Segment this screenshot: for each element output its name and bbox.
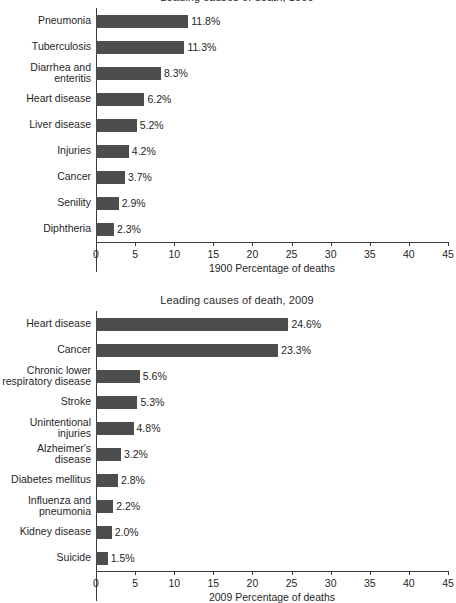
bar	[96, 344, 278, 357]
bar	[96, 500, 113, 513]
bar-value-label: 5.3%	[140, 397, 164, 408]
bar	[96, 318, 288, 331]
bar-row: Tuberculosis11.3%	[0, 34, 456, 60]
chart-1900: Leading causes of death, 1900 Pneumonia1…	[0, 0, 456, 291]
bar-track: 24.6%	[96, 311, 456, 337]
bar-category-label: Heart disease	[0, 318, 96, 330]
chart-2009-x-axis: 051015202530354045 2009 Percentage of de…	[96, 571, 456, 601]
x-axis-tick	[331, 571, 332, 575]
x-axis-tick	[292, 571, 293, 575]
bar	[96, 526, 112, 539]
bar-value-label: 2.8%	[121, 475, 145, 486]
bar-category-label: Suicide	[0, 552, 96, 564]
bar-category-label: Cancer	[0, 344, 96, 356]
x-axis-tick	[448, 242, 449, 246]
x-axis-tick-label: 15	[207, 577, 219, 589]
bar-value-label: 11.8%	[191, 16, 220, 27]
x-axis-tick	[409, 242, 410, 246]
bar-value-label: 8.3%	[164, 68, 188, 79]
x-axis-tick-label: 30	[325, 248, 337, 260]
x-axis-tick	[448, 571, 449, 575]
bar-category-label: Chronic lower respiratory disease	[0, 365, 96, 388]
bar-category-label: Heart disease	[0, 93, 96, 105]
x-axis-tick-label: 30	[325, 577, 337, 589]
bar	[96, 145, 129, 158]
x-axis-tick-label: 0	[93, 248, 99, 260]
bar-category-label: Senility	[0, 197, 96, 209]
bar-track: 5.2%	[96, 112, 456, 138]
bar-value-label: 3.2%	[124, 449, 148, 460]
bar-category-label: Cancer	[0, 171, 96, 183]
bar-value-label: 2.9%	[122, 198, 146, 209]
bar-row: Diabetes mellitus2.8%	[0, 467, 456, 493]
x-axis-tick-label: 5	[132, 248, 138, 260]
bar-row: Influenza and pneumonia2.2%	[0, 493, 456, 519]
bar-track: 2.9%	[96, 190, 456, 216]
x-axis-tick	[174, 242, 175, 246]
bar	[96, 552, 108, 565]
chart-1900-x-axis-line	[96, 242, 448, 243]
bar-category-label: Unintentional injuries	[0, 417, 96, 440]
bar-track: 23.3%	[96, 337, 456, 363]
x-axis-tick-label: 35	[364, 248, 376, 260]
x-axis-tick	[213, 571, 214, 575]
bar-row: Chronic lower respiratory disease5.6%	[0, 363, 456, 389]
chart-1900-plot: Pneumonia11.8%Tuberculosis11.3%Diarrhea …	[0, 8, 456, 272]
bar-category-label: Tuberculosis	[0, 41, 96, 53]
bar-track: 6.2%	[96, 86, 456, 112]
bar-row: Senility2.9%	[0, 190, 456, 216]
x-axis-tick	[135, 242, 136, 246]
bar-category-label: Diarrhea and enteritis	[0, 62, 96, 85]
chart-1900-x-axis-label: 1900 Percentage of deaths	[96, 262, 448, 274]
bar	[96, 223, 114, 236]
bar	[96, 197, 119, 210]
bar-row: Injuries4.2%	[0, 138, 456, 164]
x-axis-tick-label: 20	[247, 577, 259, 589]
chart-2009-title: Leading causes of death, 2009	[0, 294, 456, 309]
bar-row: Pneumonia11.8%	[0, 8, 456, 34]
bar	[96, 119, 137, 132]
bar-row: Heart disease24.6%	[0, 311, 456, 337]
x-axis-tick-label: 25	[286, 248, 298, 260]
x-axis-tick	[370, 571, 371, 575]
bar-row: Diphtheria2.3%	[0, 216, 456, 242]
x-axis-tick-label: 25	[286, 577, 298, 589]
bar-row: Cancer3.7%	[0, 164, 456, 190]
bar-value-label: 23.3%	[281, 345, 311, 356]
bar-category-label: Diphtheria	[0, 223, 96, 235]
bar-row: Unintentional injuries4.8%	[0, 415, 456, 441]
bar-row: Cancer23.3%	[0, 337, 456, 363]
bar-value-label: 3.7%	[128, 172, 152, 183]
x-axis-tick-label: 5	[132, 577, 138, 589]
bar-category-label: Diabetes mellitus	[0, 474, 96, 486]
bar-track: 2.8%	[96, 467, 456, 493]
bar-value-label: 24.6%	[291, 319, 321, 330]
bar	[96, 93, 144, 106]
x-axis-tick-label: 45	[442, 248, 454, 260]
chart-2009-x-axis-line	[96, 571, 448, 572]
bar-track: 11.3%	[96, 34, 456, 60]
bar-value-label: 4.2%	[132, 146, 156, 157]
x-axis-tick	[370, 242, 371, 246]
x-axis-tick	[174, 571, 175, 575]
x-axis-tick-label: 0	[93, 577, 99, 589]
bar-row: Alzheimer's disease3.2%	[0, 441, 456, 467]
bar-category-label: Pneumonia	[0, 15, 96, 27]
x-axis-tick	[252, 571, 253, 575]
x-axis-tick-label: 10	[168, 248, 180, 260]
x-axis-tick	[252, 242, 253, 246]
bar	[96, 422, 134, 435]
x-axis-tick	[96, 571, 97, 575]
bar-track: 3.7%	[96, 164, 456, 190]
bar-category-label: Alzheimer's disease	[0, 443, 96, 466]
x-axis-tick-label: 45	[442, 577, 454, 589]
x-axis-tick	[213, 242, 214, 246]
x-axis-tick-label: 10	[168, 577, 180, 589]
bar-track: 4.2%	[96, 138, 456, 164]
bar-track: 8.3%	[96, 60, 456, 86]
bar-track: 3.2%	[96, 441, 456, 467]
chart-1900-title: Leading causes of death, 1900	[0, 0, 456, 6]
bar	[96, 171, 125, 184]
bar	[96, 396, 137, 409]
bar-category-label: Liver disease	[0, 119, 96, 131]
